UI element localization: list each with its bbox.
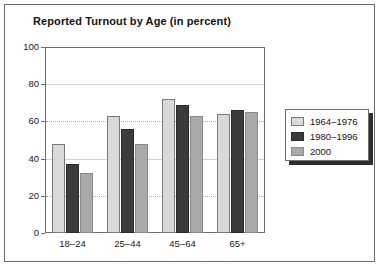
x-tick-label-1: 25–44	[114, 238, 140, 249]
bar-1-2	[135, 144, 149, 233]
y-tick-label-0: 0	[0, 228, 39, 238]
y-tick-label-100: 100	[0, 42, 39, 52]
y-tick-label-60: 60	[0, 117, 39, 127]
bar-3-1	[231, 110, 245, 233]
bar-2-1	[176, 105, 190, 233]
bars-layer	[45, 47, 265, 233]
bar-3-2	[245, 112, 259, 233]
legend-label-2: 2000	[310, 147, 331, 157]
bar-3-0	[217, 114, 231, 233]
y-tick-0	[41, 233, 45, 234]
x-tick-label-0: 18–24	[59, 238, 85, 249]
y-tick-label-20: 20	[0, 191, 39, 201]
legend-item-0[interactable]: 1964–1976	[291, 114, 368, 129]
bar-group-1	[107, 47, 149, 233]
bar-group-3	[217, 47, 259, 233]
bar-0-2	[80, 173, 94, 233]
x-tick-label-3: 65+	[229, 238, 245, 249]
x-tick-label-2: 45–64	[169, 238, 195, 249]
y-tick-label-80: 80	[0, 79, 39, 89]
legend-item-2[interactable]: 2000	[291, 144, 368, 159]
bar-2-0	[162, 99, 176, 233]
legend-label-1: 1980–1996	[310, 132, 358, 142]
page-title: Reported Turnout by Age (in percent)	[33, 15, 231, 27]
legend-item-1[interactable]: 1980–1996	[291, 129, 368, 144]
bar-2-2	[190, 116, 204, 233]
bar-0-0	[52, 144, 66, 233]
bar-group-0	[52, 47, 94, 233]
legend-label-0: 1964–1976	[310, 117, 358, 127]
legend-swatch-icon-2	[291, 147, 304, 156]
bar-0-1	[66, 164, 80, 233]
chart-page: Reported Turnout by Age (in percent) 020…	[0, 0, 379, 275]
legend-swatch-icon-0	[291, 117, 304, 126]
bar-group-2	[162, 47, 204, 233]
bar-1-0	[107, 116, 121, 233]
chart-legend: 1964–19761980–19962000	[285, 109, 369, 161]
y-tick-label-40: 40	[0, 154, 39, 164]
bar-1-1	[121, 129, 135, 233]
legend-swatch-icon-1	[291, 132, 304, 141]
